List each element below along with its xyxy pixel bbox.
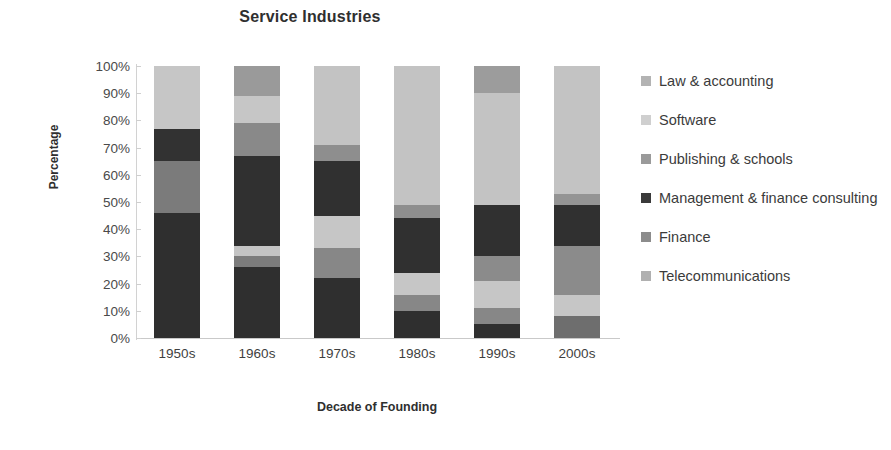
x-tick-label: 1950s	[137, 346, 217, 361]
plot-area	[137, 66, 617, 338]
y-tick-label: 10%	[72, 303, 130, 318]
bar-segment[interactable]	[554, 194, 600, 205]
x-tick-label: 1970s	[297, 346, 377, 361]
y-tick-label: 50%	[72, 195, 130, 210]
bar-1970s[interactable]	[314, 66, 360, 338]
x-axis-line	[136, 338, 620, 339]
chart-container: Service Industries Percentage 0%10%20%30…	[0, 0, 891, 450]
bar-segment[interactable]	[474, 93, 520, 205]
legend-label: Publishing & schools	[659, 150, 793, 168]
chart-legend: Law & accountingSoftwarePublishing & sch…	[641, 72, 891, 306]
bar-segment[interactable]	[554, 205, 600, 246]
bar-1980s[interactable]	[394, 66, 440, 338]
bar-segment[interactable]	[394, 311, 440, 338]
bar-segment[interactable]	[314, 161, 360, 215]
bar-segment[interactable]	[394, 205, 440, 219]
legend-item[interactable]: Law & accounting	[641, 72, 891, 90]
bar-segment[interactable]	[554, 246, 600, 295]
legend-label: Finance	[659, 228, 711, 246]
bar-1960s[interactable]	[234, 66, 280, 338]
legend-swatch-icon	[641, 115, 651, 125]
legend-item[interactable]: Software	[641, 111, 891, 129]
bar-segment[interactable]	[234, 256, 280, 267]
bar-segment[interactable]	[234, 267, 280, 338]
y-tick-label: 80%	[72, 113, 130, 128]
y-tick-label: 40%	[72, 222, 130, 237]
x-tick-label: 1980s	[377, 346, 457, 361]
bar-segment[interactable]	[234, 123, 280, 156]
bar-segment[interactable]	[474, 324, 520, 338]
bar-segment[interactable]	[474, 205, 520, 257]
y-tick-label: 100%	[72, 59, 130, 74]
bar-segment[interactable]	[154, 129, 200, 162]
bar-2000s[interactable]	[554, 66, 600, 338]
bar-1990s[interactable]	[474, 66, 520, 338]
y-tick-mark	[136, 338, 141, 339]
x-tick-label: 2000s	[537, 346, 617, 361]
bar-segment[interactable]	[154, 213, 200, 338]
bar-segment[interactable]	[314, 248, 360, 278]
bar-segment[interactable]	[474, 281, 520, 308]
bar-segment[interactable]	[314, 66, 360, 145]
bar-segment[interactable]	[474, 66, 520, 93]
legend-label: Management & finance consulting	[659, 189, 877, 207]
y-tick-label: 20%	[72, 276, 130, 291]
legend-swatch-icon	[641, 193, 651, 203]
bar-1950s[interactable]	[154, 66, 200, 338]
bar-segment[interactable]	[394, 66, 440, 205]
bar-segment[interactable]	[154, 66, 200, 129]
bar-segment[interactable]	[394, 295, 440, 311]
bar-segment[interactable]	[234, 96, 280, 123]
legend-swatch-icon	[641, 232, 651, 242]
bar-segment[interactable]	[474, 256, 520, 280]
bar-segment[interactable]	[234, 156, 280, 246]
y-tick-label: 60%	[72, 167, 130, 182]
legend-swatch-icon	[641, 76, 651, 86]
bar-segment[interactable]	[314, 145, 360, 161]
legend-label: Software	[659, 111, 716, 129]
bar-segment[interactable]	[474, 308, 520, 324]
legend-item[interactable]: Publishing & schools	[641, 150, 891, 168]
legend-item[interactable]: Management & finance consulting	[641, 189, 891, 207]
bar-segment[interactable]	[314, 216, 360, 249]
legend-swatch-icon	[641, 154, 651, 164]
bar-segment[interactable]	[554, 316, 600, 338]
y-axis-title: Percentage	[47, 97, 61, 217]
bar-segment[interactable]	[394, 218, 440, 272]
legend-swatch-icon	[641, 271, 651, 281]
legend-label: Telecommunications	[659, 267, 790, 285]
bar-segment[interactable]	[154, 161, 200, 213]
bar-segment[interactable]	[234, 246, 280, 257]
y-tick-label: 30%	[72, 249, 130, 264]
y-tick-label: 90%	[72, 86, 130, 101]
bar-segment[interactable]	[554, 66, 600, 194]
bar-segment[interactable]	[554, 295, 600, 317]
chart-title: Service Industries	[0, 8, 620, 26]
bar-segment[interactable]	[394, 273, 440, 295]
legend-item[interactable]: Telecommunications	[641, 267, 891, 285]
legend-label: Law & accounting	[659, 72, 773, 90]
x-tick-label: 1990s	[457, 346, 537, 361]
x-tick-label: 1960s	[217, 346, 297, 361]
legend-item[interactable]: Finance	[641, 228, 891, 246]
bar-segment[interactable]	[234, 66, 280, 96]
y-tick-label: 0%	[72, 331, 130, 346]
x-axis-title: Decade of Founding	[137, 400, 617, 414]
y-tick-label: 70%	[72, 140, 130, 155]
bar-segment[interactable]	[314, 278, 360, 338]
